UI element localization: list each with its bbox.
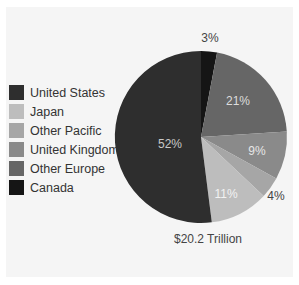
label-canada: 3% <box>201 31 219 45</box>
label-other-pacific: 4% <box>267 189 285 203</box>
pie-chart: 3% 21% 9% 4% 11% 52% $20.2 Trillion <box>0 0 299 285</box>
label-japan: 11% <box>214 187 237 201</box>
label-united-kingdom: 9% <box>248 144 266 158</box>
label-united-states: 52% <box>158 137 182 151</box>
label-other-europe: 21% <box>226 94 250 108</box>
total-label: $20.2 Trillion <box>174 232 242 246</box>
